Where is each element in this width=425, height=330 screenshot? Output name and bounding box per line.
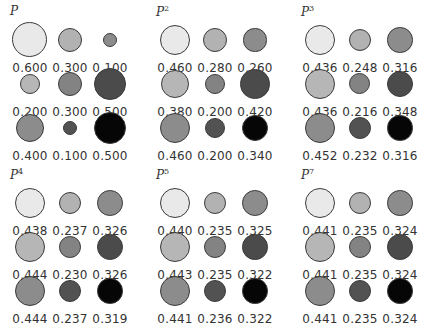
value-label: 0.444 (10, 312, 50, 326)
matrix-label-base: P (301, 5, 309, 19)
value-circle (204, 236, 226, 258)
matrix-label-exponent: 5 (164, 167, 169, 176)
value-circle (305, 69, 335, 99)
value-label: 0.319 (90, 312, 130, 326)
value-circle (20, 74, 40, 94)
value-label: 0.236 (195, 312, 235, 326)
value-circle (63, 121, 77, 135)
matrix-label-base: P (156, 168, 164, 182)
matrix-panel-p1: P0.6000.3000.1000.2000.3000.5000.4000.10… (0, 0, 140, 165)
matrix-label: P2 (156, 4, 169, 19)
matrix-panel-p4: P40.4380.2370.3260.4440.2300.3260.4440.2… (0, 163, 140, 328)
value-circle (349, 29, 372, 52)
value-circle (97, 278, 123, 304)
value-circle (387, 190, 413, 216)
matrix-label-base: P (10, 168, 18, 182)
value-label: 0.232 (340, 149, 380, 163)
matrix-panel-p5: P50.4400.2350.3250.4430.2350.3220.4410.2… (145, 163, 285, 328)
value-circle (349, 192, 371, 214)
value-circle (387, 234, 413, 260)
matrix-panel-p3: P30.4360.2480.3160.4360.2160.3480.4520.2… (290, 0, 425, 165)
value-label: 0.300 (50, 105, 90, 119)
value-label: 0.237 (50, 312, 90, 326)
value-circle (242, 190, 268, 216)
value-circle (59, 280, 81, 302)
value-circle (387, 115, 412, 140)
matrix-label: P3 (301, 4, 314, 19)
value-circle (58, 28, 83, 53)
matrix-label: P (10, 4, 18, 18)
value-circle (349, 117, 371, 139)
value-label: 0.600 (10, 61, 50, 75)
value-circle (305, 25, 335, 55)
matrix-label-base: P (10, 4, 18, 18)
matrix-label-base: P (301, 168, 309, 182)
matrix-label-exponent: 7 (309, 167, 314, 176)
value-circle (242, 278, 268, 304)
value-circle (349, 280, 371, 302)
value-label: 0.100 (50, 149, 90, 163)
value-circle (160, 232, 190, 262)
value-circle (103, 33, 117, 47)
value-circle (240, 69, 269, 98)
value-circle (305, 113, 335, 143)
value-circle (58, 72, 83, 97)
value-label: 0.441 (155, 312, 195, 326)
value-label: 0.280 (195, 61, 235, 75)
matrix-label-exponent: 3 (309, 4, 314, 13)
value-circle (160, 25, 191, 56)
value-circle (15, 188, 45, 218)
value-label: 0.200 (195, 149, 235, 163)
value-label: 0.200 (195, 105, 235, 119)
value-label: 0.322 (235, 312, 275, 326)
value-circle (97, 190, 123, 216)
value-circle (242, 234, 268, 260)
matrix-label: P5 (156, 167, 169, 182)
value-circle (160, 113, 191, 144)
value-circle (97, 234, 123, 260)
matrix-label-base: P (156, 5, 164, 19)
matrix-panel-p2: P20.4600.2800.2600.3800.2000.4200.4600.2… (145, 0, 285, 165)
value-circle (204, 192, 226, 214)
value-circle (387, 278, 413, 304)
value-label: 0.235 (340, 312, 380, 326)
matrix-label: P7 (301, 167, 314, 182)
value-label: 0.316 (380, 149, 420, 163)
value-circle (12, 22, 47, 57)
value-circle (94, 68, 126, 100)
value-circle (15, 276, 45, 306)
matrix-power-diagram: P0.6000.3000.1000.2000.3000.5000.4000.10… (0, 0, 425, 330)
value-circle (203, 28, 227, 52)
value-label: 0.400 (10, 149, 50, 163)
value-circle (94, 112, 126, 144)
value-circle (59, 236, 81, 258)
value-label: 0.452 (300, 149, 340, 163)
value-circle (349, 236, 371, 258)
value-label: 0.441 (300, 312, 340, 326)
value-circle (205, 74, 225, 94)
value-circle (160, 276, 190, 306)
value-circle (59, 192, 81, 214)
value-label: 0.460 (155, 149, 195, 163)
value-circle (160, 188, 190, 218)
matrix-panel-p7: P70.4410.2350.3240.4410.2350.3240.4410.2… (290, 163, 425, 328)
value-circle (305, 276, 335, 306)
matrix-label-exponent: 4 (18, 167, 23, 176)
value-label: 0.340 (235, 149, 275, 163)
value-label: 0.324 (380, 312, 420, 326)
value-circle (387, 27, 412, 52)
matrix-label: P4 (10, 167, 23, 182)
matrix-label-exponent: 2 (164, 4, 169, 13)
value-label: 0.500 (90, 149, 130, 163)
value-circle (305, 188, 335, 218)
value-circle (15, 232, 45, 262)
value-circle (243, 28, 266, 51)
value-circle (305, 232, 335, 262)
value-circle (204, 280, 226, 302)
value-circle (387, 71, 414, 98)
value-circle (349, 73, 370, 94)
value-circle (161, 70, 189, 98)
value-circle (242, 115, 268, 141)
value-circle (16, 114, 45, 143)
value-circle (205, 118, 225, 138)
